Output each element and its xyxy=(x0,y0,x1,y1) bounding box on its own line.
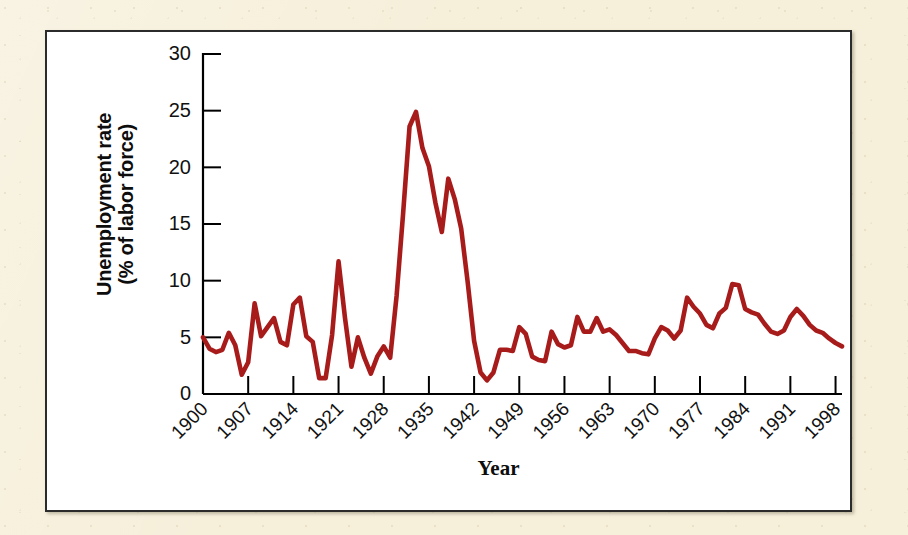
y-axis-title: Unemployment rate (% of labor force) xyxy=(93,74,138,334)
y-tick-label: 20 xyxy=(169,156,191,178)
y-tick-label: 25 xyxy=(169,99,191,121)
x-tick-label: 1977 xyxy=(664,398,709,443)
x-tick-label: 1921 xyxy=(303,398,348,443)
x-tick-label: 1991 xyxy=(754,398,799,443)
y-axis-tick-labels: 051015202530 xyxy=(169,42,191,404)
x-tick-label: 1984 xyxy=(709,398,754,443)
x-axis-tick-labels: 1900190719141921192819351942194919561963… xyxy=(167,398,844,443)
x-tick-label: 1907 xyxy=(212,398,257,443)
x-tick-label: 1970 xyxy=(619,398,664,443)
x-tick-label: 1900 xyxy=(167,398,212,443)
y-tick-label: 0 xyxy=(180,382,191,404)
y-tick-label: 10 xyxy=(169,269,191,291)
x-tick-label: 1914 xyxy=(257,398,302,443)
x-tick-label: 1956 xyxy=(529,398,574,443)
x-tick-label: 1928 xyxy=(348,398,393,443)
y-axis-title-line2: (% of labor force) xyxy=(115,74,137,334)
unemployment-rate-series xyxy=(203,112,842,381)
unemployment-rate-line-chart: 1900190719141921192819351942194919561963… xyxy=(47,32,850,510)
x-tick-label: 1963 xyxy=(574,398,619,443)
y-axis-title-line1: Unemployment rate xyxy=(93,74,115,334)
figure-frame: 1900190719141921192819351942194919561963… xyxy=(45,30,852,512)
x-axis-ticks xyxy=(203,376,836,394)
x-tick-label: 1949 xyxy=(483,398,528,443)
y-tick-label: 30 xyxy=(169,42,191,64)
x-tick-label: 1998 xyxy=(800,398,845,443)
y-tick-label: 5 xyxy=(180,326,191,348)
y-tick-label: 15 xyxy=(169,212,191,234)
chart-area: 1900190719141921192819351942194919561963… xyxy=(47,32,850,510)
x-axis-title: Year xyxy=(47,456,850,481)
figure-page: 1900190719141921192819351942194919561963… xyxy=(0,0,908,535)
x-tick-label: 1935 xyxy=(393,398,438,443)
x-tick-label: 1942 xyxy=(438,398,483,443)
